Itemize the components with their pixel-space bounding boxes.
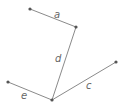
point-junction (50, 98, 53, 101)
point-a-start (28, 7, 31, 10)
segment-e (8, 82, 52, 100)
label-a: a (54, 9, 60, 20)
segment-a (30, 9, 76, 27)
segment-c (52, 62, 116, 100)
point-e-end (6, 80, 9, 83)
label-d: d (55, 53, 62, 64)
segment-diagram: a d c e (0, 0, 128, 107)
label-c: c (86, 80, 92, 91)
point-c-end (114, 60, 117, 63)
label-e: e (21, 90, 27, 101)
point-a-end (74, 25, 77, 28)
